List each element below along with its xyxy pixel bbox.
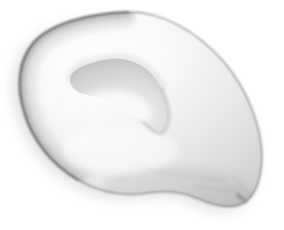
- specimen-illustration: [0, 0, 284, 230]
- image-canvas: Ear-shaped teardrop specimen on white ba…: [0, 0, 284, 230]
